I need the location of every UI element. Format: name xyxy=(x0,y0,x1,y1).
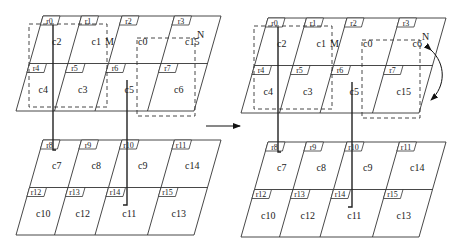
cell-label: c4 xyxy=(264,86,273,97)
cell-label: c11 xyxy=(122,208,136,219)
region-n-outline xyxy=(137,38,195,116)
region-tag-label: r8 xyxy=(271,143,278,152)
cell-label: c3 xyxy=(303,86,312,97)
cell-label: c11 xyxy=(347,210,361,221)
region-tag-label: r11 xyxy=(401,143,411,152)
region-m-label: M xyxy=(330,38,339,49)
region-tag-label: r5 xyxy=(71,64,78,73)
left-panel: r0c2r1c1r2c0r3c15r4c4r5c3r6c5r7c6r8c7r9c… xyxy=(16,16,221,235)
swap-arrow-icon xyxy=(431,50,442,100)
cell-label: c13 xyxy=(172,208,186,219)
cell-label: c9 xyxy=(138,160,147,171)
cell-label: c1 xyxy=(92,36,101,47)
cell-label: c15 xyxy=(397,86,411,97)
diagram-canvas: r0c2r1c1r2c0r3c15r4c4r5c3r6c5r7c6r8c7r9c… xyxy=(0,0,454,250)
cell-label: c4 xyxy=(39,84,48,95)
cell-label: c7 xyxy=(52,160,61,171)
top-grid: r0c2r1c1r2c0r3c6r4c4r5c3r6c5r7c15 xyxy=(241,18,446,113)
cell-label: c10 xyxy=(261,210,275,221)
region-tag-label: r9 xyxy=(85,141,92,150)
region-tag-label: r8 xyxy=(46,141,53,150)
cell-label: c13 xyxy=(397,210,411,221)
region-tag-label: r2 xyxy=(350,19,357,28)
region-tag-label: r7 xyxy=(389,66,396,75)
region-tag-label: r5 xyxy=(296,66,303,75)
region-tag-label: r6 xyxy=(112,64,119,73)
cell-label: c10 xyxy=(36,208,50,219)
right-panel: r0c2r1c1r2c0r3c6r4c4r5c3r6c5r7c15r8c7r9c… xyxy=(241,18,446,237)
region-tag-label: r4 xyxy=(258,66,265,75)
cell-label: c1 xyxy=(317,38,326,49)
cell-label: c6 xyxy=(174,84,183,95)
bottom-grid: r8c7r9c8r10c9r11c14r12c10r13c12r14c11r15… xyxy=(16,140,221,235)
bottom-grid: r8c7r9c8r10c9r11c14r12c10r13c12r14c11r15… xyxy=(241,142,446,237)
region-tag-label: r13 xyxy=(294,190,305,199)
top-grid: r0c2r1c1r2c0r3c15r4c4r5c3r6c5r7c6 xyxy=(16,16,221,111)
region-tag-label: r7 xyxy=(164,64,171,73)
region-tag-label: r3 xyxy=(403,19,410,28)
region-n-outline xyxy=(362,40,420,118)
region-tag-label: r11 xyxy=(176,141,186,150)
region-tag-label: r15 xyxy=(387,190,398,199)
cell-label: c5 xyxy=(350,86,359,97)
region-m-label: M xyxy=(105,36,114,47)
cell-label: c12 xyxy=(301,210,315,221)
region-tag-label: r10 xyxy=(123,141,134,150)
region-n-label: N xyxy=(422,31,429,42)
region-tag-label: r10 xyxy=(348,143,359,152)
cell-label: c8 xyxy=(317,162,326,173)
region-n-label: N xyxy=(197,29,204,40)
region-tag-label: r9 xyxy=(310,143,317,152)
region-tag-label: r2 xyxy=(125,17,132,26)
region-tag-label: r12 xyxy=(31,188,42,197)
cell-label: c9 xyxy=(363,162,372,173)
region-tag-label: r6 xyxy=(337,66,344,75)
cell-label: c12 xyxy=(76,208,90,219)
region-tag-label: r14 xyxy=(335,190,346,199)
region-tag-label: r4 xyxy=(33,64,40,73)
cell-label: c7 xyxy=(277,162,286,173)
cell-label: c8 xyxy=(92,160,101,171)
cell-label: c14 xyxy=(410,162,424,173)
region-tag-label: r14 xyxy=(110,188,121,197)
cell-label: c3 xyxy=(78,84,87,95)
cell-label: c14 xyxy=(185,160,199,171)
region-tag-label: r3 xyxy=(178,17,185,26)
region-tag-label: r15 xyxy=(162,188,173,197)
region-tag-label: r13 xyxy=(69,188,80,197)
region-tag-label: r12 xyxy=(256,190,267,199)
cell-label: c5 xyxy=(125,84,134,95)
